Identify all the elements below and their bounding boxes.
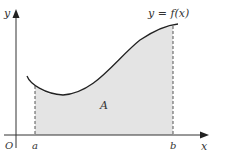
y-axis-arrow-icon	[13, 9, 20, 18]
area-diagram: y x O a b A y = f(x)	[0, 0, 233, 153]
y-axis-label: y	[3, 7, 11, 20]
x-axis-label: x	[201, 140, 208, 153]
curve-label: y = f(x)	[147, 7, 189, 20]
x-axis-arrow-icon	[200, 132, 209, 139]
shaded-area	[35, 26, 173, 135]
origin-label: O	[5, 140, 13, 151]
upper-bound-label: b	[170, 140, 176, 151]
lower-bound-label: a	[32, 140, 38, 151]
area-label: A	[99, 99, 108, 112]
